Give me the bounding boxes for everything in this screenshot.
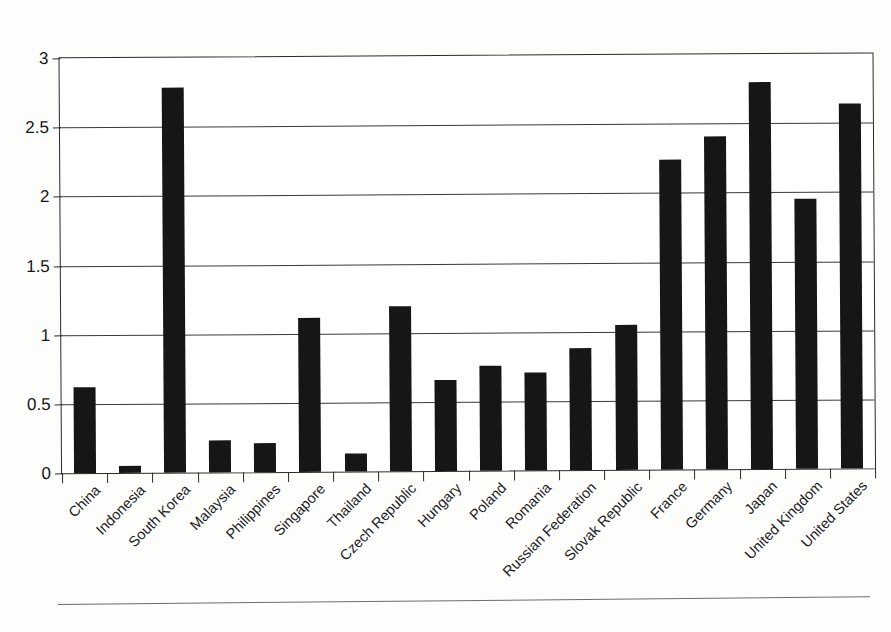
- bar: [839, 103, 863, 468]
- category-label-text: Hungary: [415, 481, 464, 530]
- bar: [434, 380, 457, 471]
- y-axis-tick-label: 0.5: [27, 396, 51, 413]
- x-axis-tick: [604, 470, 605, 480]
- bar: [570, 348, 593, 470]
- bar: [525, 372, 548, 470]
- bar: [299, 318, 322, 472]
- x-axis-tick: [288, 472, 289, 482]
- y-axis-tick-label: 2.5: [25, 119, 49, 136]
- bar: [749, 82, 773, 469]
- bar: [795, 199, 819, 469]
- category-label-text: France: [648, 479, 690, 521]
- x-axis-category-label: Japan: [743, 480, 781, 518]
- bar: [704, 136, 728, 470]
- x-axis-tick: [649, 470, 650, 480]
- scanned-page: 00.511.522.53 ChinaIndonesiaSouth KoreaM…: [0, 0, 891, 632]
- bar-chart-figure: 00.511.522.53 ChinaIndonesiaSouth KoreaM…: [0, 0, 891, 603]
- x-axis-tick: [243, 472, 244, 482]
- category-label-text: China: [66, 483, 103, 520]
- x-axis-tick: [469, 471, 470, 481]
- x-axis-labels: ChinaIndonesiaSouth KoreaMalaysiaPhilipp…: [61, 479, 877, 604]
- plot-area: 00.511.522.53: [59, 52, 877, 474]
- bar: [389, 307, 412, 472]
- y-axis-tick-label: 1: [41, 327, 51, 344]
- y-axis-tick-label: 3: [39, 50, 49, 67]
- x-axis-category-label: China: [67, 484, 104, 521]
- y-axis-tick-label: 1.5: [26, 257, 50, 274]
- bar: [73, 387, 96, 473]
- x-axis-tick: [785, 469, 786, 479]
- bar: [209, 441, 231, 473]
- bar: [479, 366, 502, 471]
- bar: [659, 160, 683, 470]
- bar: [119, 466, 141, 473]
- bar: [162, 88, 186, 473]
- x-axis-tick: [830, 469, 831, 479]
- x-axis-tick: [740, 469, 741, 479]
- category-label-text: Germany: [683, 479, 735, 532]
- category-label-text: Japan: [742, 479, 780, 517]
- x-axis-tick: [152, 473, 153, 483]
- x-axis-tick: [694, 469, 695, 479]
- x-axis-tick: [514, 471, 515, 481]
- x-axis-tick: [423, 471, 424, 481]
- y-axis-tick-label: 2: [40, 188, 50, 205]
- y-axis-tick-label: 0: [42, 465, 52, 482]
- x-axis-tick: [198, 473, 199, 483]
- x-axis-tick: [62, 473, 63, 483]
- bar: [345, 454, 367, 472]
- bar: [615, 325, 638, 470]
- x-axis-tick: [333, 472, 334, 482]
- x-axis-category-label: Germany: [684, 480, 736, 533]
- category-label-text: Poland: [467, 480, 509, 522]
- x-axis-tick: [559, 470, 560, 480]
- bars-layer: [60, 53, 876, 473]
- x-axis-category-label: Hungary: [416, 482, 465, 531]
- x-axis-tick: [875, 468, 876, 478]
- x-axis-tick: [107, 473, 108, 483]
- bar: [254, 443, 276, 472]
- x-axis-tick: [378, 471, 379, 481]
